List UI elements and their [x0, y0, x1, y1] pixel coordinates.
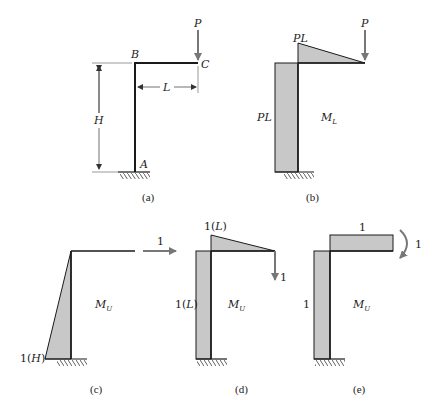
base-moment-label: 1(H): [20, 352, 45, 365]
caption-d: (d): [235, 383, 248, 396]
diagram-label: MU: [94, 298, 113, 313]
joint-a-label: A: [139, 158, 148, 171]
unit-moment-arrow-icon: [400, 230, 407, 258]
column-moment-area: [45, 251, 71, 359]
column-moment-label: 1: [303, 298, 310, 311]
ground-hatch-icon: [57, 360, 87, 366]
diagram-label: ML: [320, 111, 337, 126]
unit-moment-label: 1: [415, 238, 422, 251]
diagram-label: MU: [227, 298, 246, 313]
column-moment-area: [196, 251, 211, 359]
caption-c: (c): [90, 383, 103, 396]
joint-c-label: C: [201, 58, 210, 71]
caption-b: (b): [306, 191, 319, 204]
column-moment-area: [314, 251, 330, 359]
unit-load-label: 1: [157, 235, 164, 248]
length-label: L: [162, 81, 170, 94]
unit-load-label: 1: [280, 271, 287, 284]
height-label: H: [93, 114, 104, 127]
panel-a: H L P B C A (a): [92, 17, 210, 204]
frame-moment-diagrams: H L P B C A (a) P PL PL ML (b) 1: [0, 0, 438, 419]
joint-b-label: B: [130, 48, 139, 61]
ground-hatch-icon: [284, 173, 314, 179]
panel-e: 1 1 1 MU (e): [303, 221, 422, 396]
column-moment-label: 1(L): [175, 298, 198, 311]
panel-d: 1 1(L) 1(L) MU (d): [175, 220, 287, 396]
beam-moment-label: 1: [359, 221, 366, 234]
ground-hatch-icon: [120, 173, 150, 179]
diagram-label: MU: [352, 298, 371, 313]
load-label: P: [193, 17, 202, 30]
panel-c: 1 1(H) MU (c): [20, 235, 176, 396]
ground-hatch-icon: [315, 360, 345, 366]
column-moment-area: [275, 63, 298, 172]
caption-e: (e): [353, 383, 366, 396]
column-moment-label: PL: [256, 111, 272, 124]
beam-moment-area: [330, 235, 393, 251]
beam-moment-area: [211, 235, 275, 251]
ground-hatch-icon: [197, 360, 227, 366]
beam-moment-area: [298, 43, 365, 63]
beam-moment-label: PL: [292, 32, 308, 45]
load-label: P: [360, 17, 369, 30]
panel-b: P PL PL ML (b): [256, 17, 369, 204]
caption-a: (a): [142, 191, 155, 204]
beam-moment-label: 1(L): [204, 220, 227, 233]
